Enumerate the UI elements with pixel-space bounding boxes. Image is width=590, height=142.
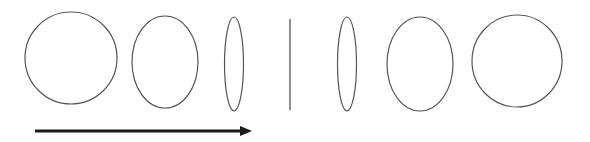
diagram-canvas xyxy=(0,0,590,142)
ellipse-thin-right xyxy=(338,17,357,111)
progression-arrow xyxy=(35,126,252,136)
shape-sequence-diagram xyxy=(0,0,590,142)
ellipse-thin-left xyxy=(225,17,244,111)
ellipse-wide-right xyxy=(387,17,453,111)
arrow-head-icon xyxy=(240,126,252,136)
circle-right xyxy=(472,15,562,107)
ellipse-wide-left xyxy=(132,16,198,108)
shapes-group xyxy=(25,12,562,111)
circle-left xyxy=(25,12,117,104)
